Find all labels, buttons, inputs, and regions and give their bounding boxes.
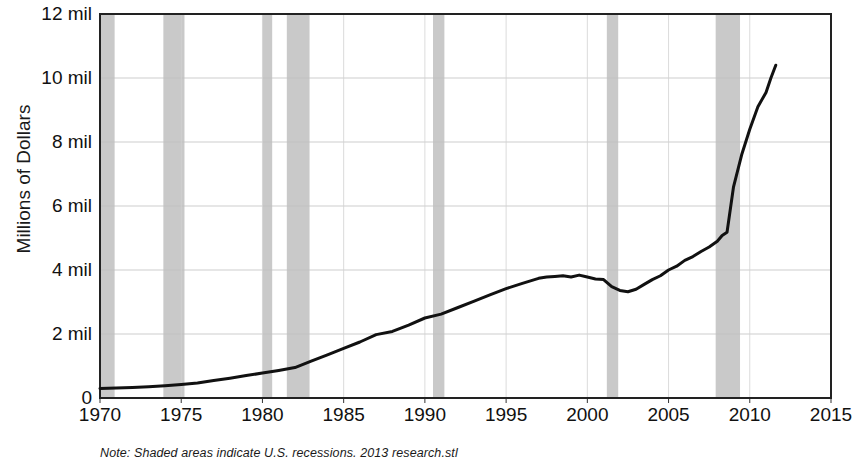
x-tick-label-1990: 1990	[404, 404, 446, 426]
x-tick-label-2005: 2005	[647, 404, 689, 426]
x-tick-label-2000: 2000	[566, 404, 608, 426]
chart-figure: 12 mil 10 mil 8 mil 6 mil 4 mil 2 mil 0 …	[0, 0, 852, 462]
x-tick-label-1980: 1980	[241, 404, 283, 426]
plot-canvas	[0, 0, 852, 462]
x-tick-label-1985: 1985	[323, 404, 365, 426]
x-tick-label-2010: 2010	[729, 404, 771, 426]
x-tick-label-1995: 1995	[485, 404, 527, 426]
chart-note: Note: Shaded areas indicate U.S. recessi…	[100, 446, 458, 460]
x-tick-label-2015: 2015	[810, 404, 852, 426]
x-tick-label-1970: 1970	[79, 404, 121, 426]
x-tick-label-1975: 1975	[160, 404, 202, 426]
